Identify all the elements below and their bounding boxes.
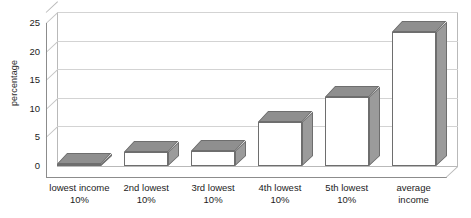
bar-top-face <box>392 21 446 32</box>
x-tick-label: 4th lowest10% <box>247 182 314 205</box>
x-tick-label-line1: average <box>396 182 430 193</box>
bars-layer <box>46 12 458 178</box>
x-tick-label-line2: 10% <box>180 194 247 206</box>
bar-front-face <box>191 151 235 166</box>
y-tick-label: 0 <box>18 161 40 171</box>
bar <box>258 122 302 166</box>
y-tick-label: 15 <box>18 75 40 85</box>
x-tick-label-line2: 10% <box>313 194 380 206</box>
y-tick-label: 25 <box>18 18 40 28</box>
bar-front-face <box>258 122 302 166</box>
x-tick-label-line1: lowest income <box>49 182 109 193</box>
x-tick-label: lowest income10% <box>46 182 113 205</box>
bar <box>191 151 235 166</box>
plot-area <box>46 12 458 178</box>
bar <box>325 97 369 166</box>
x-tick-label-line1: 4th lowest <box>259 182 302 193</box>
x-tick-label-line1: 3rd lowest <box>191 182 234 193</box>
x-tick-label: 3rd lowest10% <box>180 182 247 205</box>
bar <box>392 32 436 166</box>
y-axis-tick-labels: 0510152025 <box>16 0 40 218</box>
bar <box>57 164 101 166</box>
x-tick-label-line1: 2nd lowest <box>124 182 169 193</box>
bar-front-face <box>325 97 369 166</box>
bar-front-face <box>124 152 168 166</box>
x-tick-label: 5th lowest10% <box>313 182 380 205</box>
y-tick-label: 10 <box>18 104 40 114</box>
y-tick-label: 5 <box>18 132 40 142</box>
bar-chart: percentage 0510152025 lowest income10%2n… <box>0 0 471 218</box>
y-tick-label: 20 <box>18 47 40 57</box>
x-tick-label: averageincome <box>380 182 447 205</box>
x-tick-label-line2: income <box>380 194 447 206</box>
bar-front-face <box>57 164 101 166</box>
x-tick-label-line2: 10% <box>247 194 314 206</box>
bar-side-face <box>369 87 380 166</box>
x-tick-label-line1: 5th lowest <box>325 182 368 193</box>
bar-front-face <box>392 32 436 166</box>
x-axis-tick-labels: lowest income10%2nd lowest10%3rd lowest1… <box>46 182 458 216</box>
x-tick-label: 2nd lowest10% <box>113 182 180 205</box>
bar <box>124 152 168 166</box>
x-tick-label-line2: 10% <box>113 194 180 206</box>
x-tick-label-line2: 10% <box>46 194 113 206</box>
bar-side-face <box>436 21 447 166</box>
